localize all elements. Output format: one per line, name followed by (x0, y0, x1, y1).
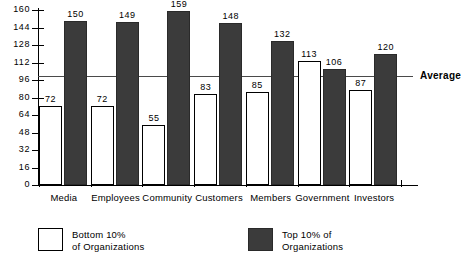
bar-value-label: 106 (319, 57, 350, 67)
x-axis-tick (349, 180, 350, 187)
bar-members-bottom10 (246, 92, 269, 185)
bar-value-label: 55 (138, 113, 169, 123)
bar-value-label: 83 (190, 82, 221, 92)
y-axis-tick-label: 32 (0, 145, 30, 154)
x-axis-tick (194, 180, 195, 187)
x-axis-label-investors: Investors (343, 192, 405, 203)
bar-value-label: 132 (267, 29, 298, 39)
bar-value-label: 149 (112, 10, 143, 20)
y-axis-tick-label: 96 (0, 75, 30, 84)
bar-government-top10 (323, 69, 346, 185)
bar-value-label: 72 (87, 94, 118, 104)
x-axis-tick (142, 180, 143, 187)
x-axis-tick (39, 180, 40, 187)
y-axis-tick-label: 16 (0, 163, 30, 172)
y-axis-tick-label: 80 (0, 93, 30, 102)
y-axis-tick-label: 112 (0, 58, 30, 67)
legend-swatch-bottom10 (38, 228, 63, 251)
y-axis-tick-label: 144 (0, 23, 30, 32)
x-axis-tick (401, 180, 402, 187)
bar-community-bottom10 (142, 125, 165, 185)
bar-value-label: 85 (242, 80, 273, 90)
y-axis-tick-label: 48 (0, 128, 30, 137)
bar-customers-bottom10 (194, 94, 217, 185)
x-axis-tick (298, 180, 299, 187)
y-axis-tick-label: 64 (0, 110, 30, 119)
legend-label-line1: Top 10% of (282, 229, 343, 241)
bar-value-label: 120 (370, 42, 401, 52)
legend-label-top10: Top 10% ofOrganizations (282, 229, 343, 252)
bar-community-top10 (167, 11, 190, 185)
bar-value-label: 159 (163, 0, 194, 9)
bar-members-top10 (271, 41, 294, 185)
legend-label-line2: of Organizations (72, 241, 144, 253)
bar-investors-bottom10 (349, 90, 372, 185)
bar-employees-bottom10 (91, 106, 114, 185)
legend-swatch-top10 (248, 228, 273, 251)
bar-value-label: 150 (60, 9, 91, 19)
bar-value-label: 148 (215, 11, 246, 21)
bar-customers-top10 (219, 23, 242, 185)
bar-employees-top10 (116, 22, 139, 185)
bar-media-bottom10 (39, 106, 62, 185)
bar-investors-top10 (374, 54, 397, 185)
x-axis-line (38, 185, 418, 186)
x-axis-tick (246, 180, 247, 187)
y-axis-tick-label: 0 (0, 180, 30, 189)
average-label: Average (420, 70, 461, 81)
bar-value-label: 72 (35, 94, 66, 104)
x-axis-tick (91, 180, 92, 187)
y-axis-tick-label: 160 (0, 5, 30, 14)
y-axis-tick-label: 128 (0, 40, 30, 49)
bar-government-bottom10 (298, 61, 321, 185)
bar-media-top10 (64, 21, 87, 185)
legend-label-line2: Organizations (282, 241, 343, 253)
legend-label-line1: Bottom 10% (72, 229, 144, 241)
legend-label-bottom10: Bottom 10%of Organizations (72, 229, 144, 252)
bar-value-label: 87 (345, 78, 376, 88)
